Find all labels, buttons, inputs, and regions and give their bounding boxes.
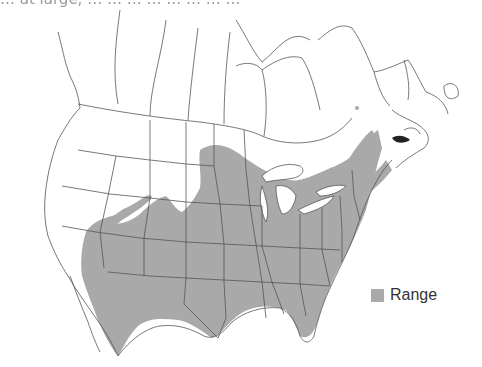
range-area [81, 130, 392, 356]
map-legend: Range [371, 286, 437, 304]
legend-label-range: Range [390, 286, 437, 304]
prince-edward-island [392, 136, 410, 143]
islands [355, 84, 458, 110]
range-map [0, 0, 482, 367]
range-swatch-icon [371, 289, 384, 302]
